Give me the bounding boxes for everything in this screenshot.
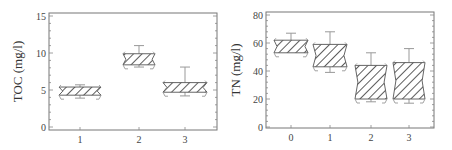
- y-axis-label: TN (mg/l): [228, 43, 243, 96]
- y-tick-label: 20: [253, 94, 263, 105]
- y-tick-label: 40: [253, 66, 263, 77]
- notch-right: [420, 99, 425, 103]
- box-1: [313, 32, 347, 73]
- y-tick-label: 60: [253, 38, 263, 49]
- box-body: [355, 65, 387, 99]
- box-3: [393, 49, 425, 104]
- x-tick-label: 0: [289, 132, 294, 143]
- y-tick-label: 0: [258, 122, 263, 133]
- box-body: [274, 40, 308, 53]
- box-1: [59, 85, 101, 99]
- box-3: [163, 67, 207, 96]
- notch-right: [342, 67, 347, 71]
- y-tick-label: 15: [36, 11, 46, 22]
- box-body: [393, 63, 425, 99]
- notch-left: [59, 95, 64, 99]
- box-body: [163, 83, 207, 93]
- notch-left: [313, 67, 318, 71]
- y-tick-label: 10: [36, 48, 46, 59]
- x-tick-label: 2: [369, 132, 374, 143]
- notch-right: [202, 92, 207, 96]
- box-2: [123, 46, 155, 69]
- box-0: [274, 33, 308, 57]
- notch-left: [355, 99, 360, 103]
- notch-left: [274, 53, 279, 57]
- box-2: [355, 53, 387, 103]
- x-tick-label: 3: [407, 132, 412, 143]
- box-plots: 051015TOC (mg/l)123 020406080TN (mg/l)01…: [0, 0, 452, 150]
- notch-left: [163, 92, 168, 96]
- notch-right: [303, 53, 308, 57]
- x-tick-label: 1: [328, 132, 333, 143]
- toc-chart: 051015TOC (mg/l)123: [10, 11, 217, 146]
- y-tick-label: 80: [253, 10, 263, 21]
- y-axis-label: TOC (mg/l): [10, 41, 25, 103]
- x-tick-label: 1: [78, 134, 83, 145]
- box-body: [59, 87, 101, 95]
- y-tick-label: 0: [41, 122, 46, 133]
- y-tick-label: 5: [41, 85, 46, 96]
- x-tick-label: 2: [137, 134, 142, 145]
- tn-chart: 020406080TN (mg/l)0123: [228, 10, 434, 144]
- box-body: [123, 54, 155, 65]
- notch-left: [123, 65, 128, 69]
- notch-right: [96, 95, 101, 99]
- figure: 051015TOC (mg/l)123 020406080TN (mg/l)01…: [0, 0, 452, 150]
- x-tick-label: 3: [183, 134, 188, 145]
- notch-right: [150, 65, 155, 69]
- notch-right: [382, 99, 387, 103]
- box-body: [313, 44, 347, 66]
- notch-left: [393, 99, 398, 103]
- plot-frame: [49, 13, 217, 130]
